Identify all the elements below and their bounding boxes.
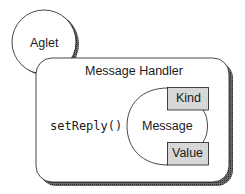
aglet-label: Aglet	[30, 36, 59, 50]
handler-title: Message Handler	[85, 64, 183, 78]
field-label-value: Value	[172, 146, 203, 160]
diagram-canvas	[0, 0, 245, 194]
field-label-kind: Kind	[176, 91, 201, 105]
handler-method: setReply()	[50, 119, 122, 133]
message-label: Message	[142, 119, 193, 133]
